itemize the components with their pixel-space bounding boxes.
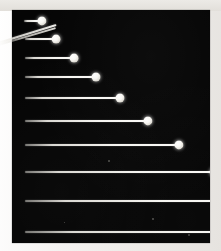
ball-marker: [52, 35, 61, 44]
emulsion-speck: [108, 160, 110, 162]
motion-streak-line: [25, 57, 74, 59]
ball-marker: [116, 94, 125, 103]
motion-streak-line: [25, 120, 148, 122]
exposure-field: [12, 10, 210, 243]
stroboscopic-photo-plate: [0, 0, 221, 251]
motion-streak-line: [25, 97, 120, 99]
motion-streak-line: [25, 231, 210, 233]
ball-marker: [143, 116, 152, 125]
motion-streak-line: [25, 171, 210, 173]
ball-marker: [37, 16, 46, 25]
motion-streak-line: [25, 144, 179, 146]
motion-streak-line: [25, 76, 96, 78]
ball-marker: [70, 54, 79, 63]
emulsion-speck: [64, 222, 65, 223]
motion-streak-line: [25, 200, 210, 202]
emulsion-noise: [12, 10, 210, 243]
ball-marker: [174, 140, 183, 149]
emulsion-speck: [152, 218, 154, 220]
ball-marker: [92, 73, 101, 82]
emulsion-speck: [188, 234, 190, 236]
